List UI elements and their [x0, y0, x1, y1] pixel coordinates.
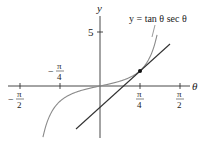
svg-text:π: π: [57, 61, 62, 71]
tangent-point-dot: [138, 69, 142, 73]
axes: [8, 16, 190, 138]
svg-text:π: π: [17, 89, 22, 99]
svg-text:−: −: [8, 94, 14, 105]
x-tick-label-pi-4: π 4: [136, 89, 144, 110]
svg-text:2: 2: [177, 100, 182, 110]
svg-text:2: 2: [17, 100, 22, 110]
x-tick-label-neg-pi-4: − π 4: [48, 61, 64, 82]
graph: y 5 θ y = tan θ sec θ − π 2 − π 4 π 4 π …: [0, 0, 203, 144]
svg-text:π: π: [137, 89, 142, 99]
equation-label: y = tan θ sec θ: [129, 13, 187, 24]
x-tick-label-neg-pi-2: − π 2: [8, 89, 24, 110]
label-leader: [152, 25, 155, 37]
svg-text:π: π: [177, 89, 182, 99]
svg-text:4: 4: [57, 72, 62, 82]
y-axis-label: y: [96, 2, 102, 14]
y-tick-label-5: 5: [88, 26, 94, 38]
svg-text:4: 4: [137, 100, 142, 110]
tangent-line: [76, 44, 170, 129]
x-axis-label: θ: [192, 80, 198, 92]
x-tick-label-pi-2: π 2: [176, 89, 184, 110]
svg-text:−: −: [48, 66, 54, 77]
